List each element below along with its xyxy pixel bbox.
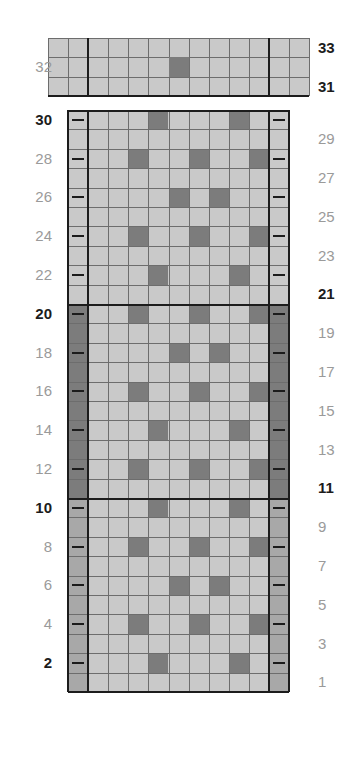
chart-cell-dark — [229, 653, 249, 672]
top-band-gridline-v — [148, 38, 149, 96]
row-tick-left — [72, 313, 84, 315]
chart-cell-dark — [249, 382, 269, 401]
chart-edge-cell-left — [68, 323, 88, 342]
row-number-left: 4 — [8, 616, 52, 631]
row-tick-left — [72, 274, 84, 276]
heavy-column-separator — [268, 38, 270, 96]
chart-gridline-h — [68, 246, 289, 247]
chart-cell-dark — [249, 226, 269, 245]
chart-gridline-h — [68, 226, 289, 227]
chart-edge-cell-right — [269, 673, 289, 692]
chart-frame-v — [288, 110, 290, 692]
chart-gridline-h — [68, 401, 289, 402]
row-number-right: 7 — [318, 558, 342, 573]
heavy-column-separator — [87, 38, 89, 96]
row-number-left: 12 — [8, 461, 52, 476]
chart-cell-dark — [128, 459, 148, 478]
chart-cell-dark — [209, 343, 229, 362]
row-number-right: 27 — [318, 170, 342, 185]
row-tick-left — [72, 235, 84, 237]
chart-cell-dark — [169, 343, 189, 362]
row-number-left: 18 — [8, 345, 52, 360]
row-number-right: 31 — [318, 79, 342, 94]
row-number-left: 20 — [8, 306, 52, 321]
chart-cell-dark — [128, 149, 148, 168]
chart-gridline-h — [68, 362, 289, 363]
chart-gridline-h — [68, 459, 289, 460]
heavy-column-separator — [87, 110, 89, 692]
chart-cell-dark — [148, 420, 168, 439]
row-number-left: 8 — [8, 539, 52, 554]
chart-edge-cell-left — [68, 517, 88, 536]
row-tick-right — [273, 429, 285, 431]
chart-cell-dark — [169, 576, 189, 595]
row-number-right: 15 — [318, 403, 342, 418]
row-tick-left — [72, 507, 84, 509]
row-tick-left — [72, 119, 84, 121]
row-tick-right — [273, 274, 285, 276]
row-number-right: 1 — [318, 674, 342, 689]
chart-gridline-h — [68, 168, 289, 169]
chart-edge-cell-left — [68, 440, 88, 459]
row-tick-right — [273, 235, 285, 237]
row-tick-left — [72, 196, 84, 198]
row-tick-left — [72, 429, 84, 431]
chart-cell-dark — [189, 382, 209, 401]
top-band-gridline-v — [249, 38, 250, 96]
row-number-left: 26 — [8, 189, 52, 204]
chart-gridline-h — [68, 265, 289, 266]
chart-cell-dark — [189, 459, 209, 478]
row-tick-right — [273, 196, 285, 198]
row-tick-left — [72, 623, 84, 625]
row-number-left: 14 — [8, 422, 52, 437]
chart-cell-dark — [249, 304, 269, 323]
chart-cell-dark — [148, 110, 168, 129]
chart-cell-dark — [229, 110, 249, 129]
chart-cell-dark — [249, 149, 269, 168]
chart-cell-dark — [229, 265, 249, 284]
chart-gridline-h — [68, 595, 289, 596]
row-tick-left — [72, 390, 84, 392]
row-number-right: 17 — [318, 364, 342, 379]
chart-cell-dark — [128, 537, 148, 556]
chart-gridline-h — [68, 188, 289, 189]
chart-gridline-h — [68, 517, 289, 518]
chart-cell-dark — [249, 537, 269, 556]
heavy-row-separator — [68, 304, 289, 306]
chart-gridline-h — [68, 343, 289, 344]
chart-edge-cell-left — [68, 556, 88, 575]
chart-cell-dark — [128, 382, 148, 401]
row-number-right: 21 — [318, 286, 342, 301]
chart-edge-cell-right — [269, 634, 289, 653]
chart-edge-cell-left — [68, 362, 88, 381]
row-tick-right — [273, 313, 285, 315]
row-tick-right — [273, 158, 285, 160]
top-band-edge-v — [309, 38, 310, 96]
row-tick-left — [72, 546, 84, 548]
chart-cell-dark — [229, 498, 249, 517]
row-number-left: 22 — [8, 267, 52, 282]
top-band-gridline-v — [209, 38, 210, 96]
row-number-left: 28 — [8, 151, 52, 166]
chart-gridline-h — [68, 614, 289, 615]
row-tick-left — [72, 158, 84, 160]
top-band-gridline-v — [128, 38, 129, 96]
row-number-right: 33 — [318, 40, 342, 55]
chart-gridline-h — [68, 285, 289, 286]
chart-cell-dark — [148, 653, 168, 672]
row-number-right: 11 — [318, 480, 342, 495]
chart-edge-cell-right — [269, 440, 289, 459]
chart-edge-cell-left — [68, 479, 88, 498]
chart-edge-cell-left — [68, 673, 88, 692]
row-tick-right — [273, 623, 285, 625]
row-tick-right — [273, 119, 285, 121]
row-tick-right — [273, 468, 285, 470]
row-number-right: 5 — [318, 597, 342, 612]
chart-gridline-h — [68, 129, 289, 130]
row-tick-left — [72, 468, 84, 470]
row-tick-right — [273, 390, 285, 392]
row-number-right: 23 — [318, 248, 342, 263]
chart-frame-v — [67, 110, 69, 692]
chart-frame-h — [68, 691, 289, 693]
chart-cell-dark — [249, 614, 269, 633]
